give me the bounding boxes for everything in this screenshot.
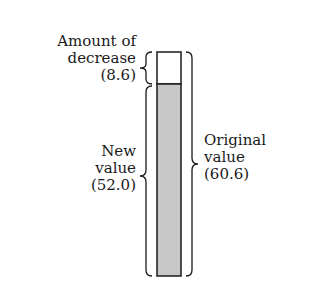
original-value-brace <box>186 52 198 276</box>
decrease-label: Amount of decrease (8.6) <box>57 33 136 84</box>
decrease-segment <box>157 52 181 84</box>
original-value-label: Original value (60.6) <box>204 132 266 183</box>
new-value-label: New value (52.0) <box>91 143 136 194</box>
new-value-brace <box>140 86 152 276</box>
decrease-brace <box>140 52 152 84</box>
new-value-segment <box>157 84 181 276</box>
